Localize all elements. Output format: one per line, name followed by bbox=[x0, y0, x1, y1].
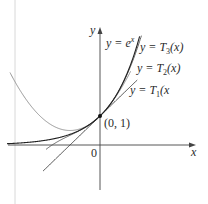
label-exp: y = ex bbox=[105, 35, 135, 50]
y-axis-arrow-icon bbox=[98, 27, 103, 34]
curve-t3 bbox=[46, 36, 141, 150]
label-t3: y = T3(x) bbox=[139, 40, 183, 56]
y-axis-label: y bbox=[89, 23, 96, 37]
point-0-1 bbox=[98, 114, 102, 118]
origin-label: 0 bbox=[91, 146, 97, 160]
graph-canvas: y x 0 (0, 1) y = ex y = T3(x) y = T2(x) … bbox=[0, 0, 208, 204]
label-t2: y = T2(x) bbox=[136, 61, 180, 77]
x-axis-label: x bbox=[190, 145, 197, 159]
taylor-polynomials-figure: y x 0 (0, 1) y = ex y = T3(x) y = T2(x) … bbox=[0, 0, 208, 204]
point-label: (0, 1) bbox=[104, 116, 130, 130]
label-t1: y = T1(x bbox=[129, 83, 170, 99]
